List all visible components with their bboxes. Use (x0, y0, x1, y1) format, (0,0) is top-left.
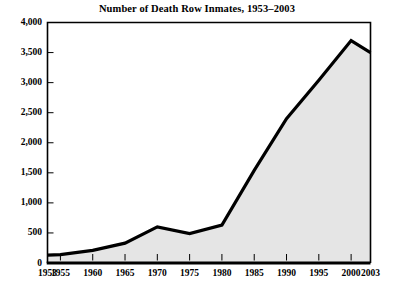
chart-svg (0, 0, 394, 290)
y-tick-label: 1,000 (0, 197, 42, 207)
x-tick-label: 2003 (351, 268, 391, 279)
chart-figure: Number of Death Row Inmates, 1953–2003 0… (0, 0, 394, 290)
y-tick-label: 1,500 (0, 167, 42, 177)
y-tick-label: 0 (0, 258, 42, 268)
y-tick-label: 500 (0, 227, 42, 237)
y-tick-label: 3,000 (0, 77, 42, 87)
plot-area: 05001,0001,5002,0002,5003,0003,5004,000 … (0, 0, 394, 290)
y-tick-label: 2,500 (0, 107, 42, 117)
y-tick-label: 3,500 (0, 47, 42, 57)
y-axis-ticks (48, 53, 54, 233)
y-tick-label: 2,000 (0, 137, 42, 147)
y-tick-label: 4,000 (0, 17, 42, 27)
